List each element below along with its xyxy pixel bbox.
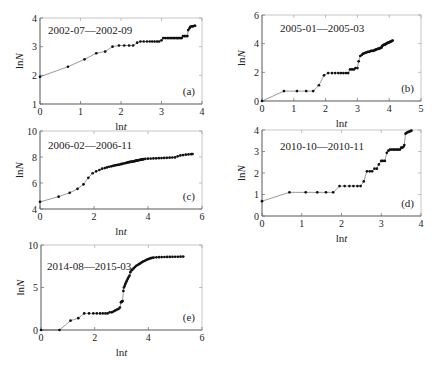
data-point	[174, 156, 177, 159]
y-tick-label: 4	[254, 125, 259, 136]
y-axis-label: lnN	[13, 161, 25, 178]
x-tick-label: 4	[146, 332, 151, 343]
panel-label: (b)	[401, 82, 414, 95]
y-tick-label: 6	[32, 178, 37, 189]
data-point	[83, 312, 86, 315]
subplot-title: 2010-10—2010-11	[280, 140, 364, 152]
data-point	[337, 72, 340, 75]
data-point	[371, 170, 374, 173]
y-tick-label: 0	[33, 325, 38, 336]
data-point	[283, 90, 286, 93]
y-tick-label: 3	[254, 146, 259, 157]
data-point	[184, 153, 187, 156]
data-point	[179, 154, 182, 157]
y-tick-label: 4	[32, 204, 37, 215]
series-line	[40, 154, 193, 202]
data-point	[82, 183, 85, 186]
y-tick-label: 4	[32, 13, 37, 24]
data-point	[176, 155, 179, 158]
data-point	[312, 90, 315, 93]
y-axis-label: lnN	[235, 49, 247, 66]
data-point	[191, 153, 194, 156]
data-point	[168, 156, 171, 159]
data-point	[352, 185, 355, 188]
x-tick-label: 2	[119, 106, 124, 117]
data-point	[296, 90, 299, 93]
data-point	[39, 75, 42, 78]
y-tick-label: 2	[254, 67, 259, 78]
data-point	[152, 256, 155, 259]
data-point	[142, 40, 145, 43]
data-point	[149, 157, 152, 160]
data-point	[376, 167, 379, 170]
y-tick-label: 4	[254, 38, 259, 49]
data-point	[177, 255, 180, 258]
data-point	[342, 72, 345, 75]
data-point	[261, 100, 264, 103]
x-tick-label: 2	[92, 211, 97, 222]
x-tick-label: 6	[200, 332, 205, 343]
data-point	[163, 256, 166, 259]
data-point	[182, 154, 185, 157]
data-point	[356, 185, 359, 188]
data-point	[357, 60, 360, 63]
subplot-d: 0123401234lntlnN2010-10—2010-11(d)	[235, 125, 424, 245]
y-axis-label: lnN	[235, 164, 247, 181]
data-point	[288, 191, 291, 194]
data-point	[122, 290, 125, 293]
y-tick-label: 2	[32, 70, 37, 81]
data-point	[98, 169, 101, 172]
x-tick-label: 3	[355, 103, 360, 114]
x-tick-label: 4	[200, 106, 205, 117]
data-point	[77, 317, 80, 320]
data-point	[99, 312, 102, 315]
subplot-e: 02460510lntlnN2014-08—2015-03(e)	[14, 240, 205, 359]
x-tick-label: 4	[387, 103, 392, 114]
subplot-title: 2002-07—2002-09	[48, 24, 133, 36]
data-point	[362, 180, 365, 183]
data-point	[68, 191, 71, 194]
data-point	[338, 185, 341, 188]
data-point	[153, 40, 156, 43]
data-point	[403, 144, 406, 147]
x-tick-label: 0	[39, 332, 44, 343]
data-point	[101, 312, 104, 315]
x-tick-label: 0	[38, 211, 43, 222]
x-tick-label: 0	[260, 218, 265, 229]
data-point	[359, 185, 362, 188]
data-point	[348, 185, 351, 188]
data-point	[186, 35, 189, 38]
data-point	[152, 157, 155, 160]
data-point	[83, 58, 86, 61]
y-tick-label: 8	[32, 152, 37, 163]
data-point	[304, 191, 307, 194]
data-point	[168, 256, 171, 259]
data-point	[39, 201, 42, 204]
data-point	[146, 40, 149, 43]
data-point	[261, 200, 264, 203]
data-point	[368, 170, 371, 173]
y-tick-label: 3	[32, 41, 37, 52]
panel-label: (e)	[183, 311, 196, 324]
data-point	[132, 44, 135, 47]
data-point	[347, 72, 350, 75]
y-tick-label: 5	[33, 282, 38, 293]
subplot-title: 2014-08—2015-03	[47, 260, 132, 272]
data-point	[95, 52, 98, 55]
data-point	[166, 256, 169, 259]
data-point	[151, 40, 154, 43]
x-tick-label: 5	[419, 103, 424, 114]
x-axis-label: lnt	[115, 225, 128, 237]
data-point	[128, 274, 131, 277]
data-point	[366, 170, 369, 173]
y-tick-label: 6	[254, 10, 259, 21]
data-point	[121, 300, 124, 303]
subplot-b: 0123450246lntlnN2005-01—2005-03(b)	[235, 10, 424, 130]
x-tick-label: 3	[379, 218, 384, 229]
data-point	[91, 172, 94, 175]
data-point	[385, 151, 388, 154]
y-axis-label: lnN	[14, 279, 26, 296]
data-point	[383, 160, 386, 163]
data-point	[160, 157, 163, 160]
data-point	[378, 163, 381, 166]
